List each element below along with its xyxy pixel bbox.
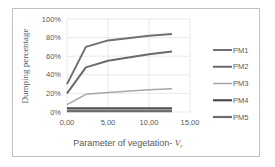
data-series: [67, 34, 172, 111]
x-axis-title: Parameter of vegetation- Vr: [73, 138, 183, 149]
y-axis-ticks: 0%20%40%60%80%100%: [42, 15, 62, 117]
y-tick-label: 20%: [46, 89, 61, 98]
legend-label: PM4: [233, 96, 248, 105]
y-tick-label: 40%: [46, 70, 61, 79]
legend-label: PM3: [233, 79, 248, 88]
legend-label: PM5: [233, 113, 248, 122]
x-tick-label: 5,00: [101, 118, 116, 127]
legend: PM1PM2PM3PM4PM5: [213, 46, 248, 122]
x-tick-label: 0,00: [60, 118, 75, 127]
series-pm2-line: [67, 52, 172, 94]
legend-item-pm1: PM1: [213, 46, 248, 55]
series-pm3-line: [67, 89, 172, 105]
y-tick-label: 60%: [46, 52, 61, 61]
legend-item-pm2: PM2: [213, 62, 248, 71]
y-tick-label: 0%: [50, 108, 61, 117]
legend-label: PM2: [233, 62, 248, 71]
legend-item-pm4: PM4: [213, 96, 248, 105]
x-tick-label: 10,00: [140, 118, 159, 127]
legend-label: PM1: [233, 46, 248, 55]
x-axis-ticks: 0,005,0010,0015,00: [60, 118, 200, 127]
y-axis-title: Dumping percentage: [20, 28, 30, 103]
y-tick-label: 100%: [42, 15, 62, 24]
y-tick-label: 80%: [46, 33, 61, 42]
line-chart: 0%20%40%60%80%100% 0,005,0010,0015,00 Du…: [0, 0, 275, 167]
legend-item-pm3: PM3: [213, 79, 248, 88]
legend-item-pm5: PM5: [213, 113, 248, 122]
x-tick-label: 15,00: [181, 118, 200, 127]
